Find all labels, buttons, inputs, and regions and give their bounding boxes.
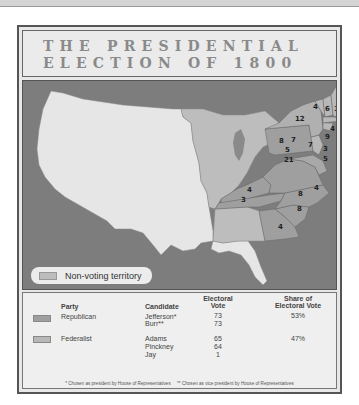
votes-jay: 1 [193,351,243,359]
state-massachusetts [323,117,337,123]
svg-text:4: 4 [330,125,335,133]
map-legend: Non-voting territory [31,267,152,284]
svg-text:8: 8 [279,137,284,145]
header-share-2: Electoral Vote [263,302,333,310]
candidate-pinckney: Pinckney [145,343,173,351]
title-line-2: ELECTION OF 1800 [43,55,297,71]
svg-text:21: 21 [284,156,294,164]
share-republican: 53% [263,312,333,320]
header-candidate: Candidate [145,303,179,311]
non-voting-swatch [39,272,57,280]
share-federalist: 47% [263,335,333,343]
votes-jefferson: 73 [193,312,243,320]
legend-label: Non-voting territory [65,271,142,281]
florida-territory [211,241,267,285]
map-svg: 4 6 16 12 4 9 8 7 7 3 5 5 21 4 3 8 4 8 4 [23,81,337,289]
footnotes: * Chosen as president by House of Repres… [23,381,336,386]
header-electoral-2: Vote [193,302,243,310]
federalist-swatch [33,336,51,343]
republican-swatch [33,315,51,322]
svg-text:5: 5 [285,146,290,154]
svg-text:8: 8 [298,190,303,198]
svg-text:4: 4 [278,223,283,231]
svg-text:9: 9 [325,133,330,141]
svg-text:8: 8 [297,205,302,213]
top-border [0,0,359,7]
candidate-jay: Jay [145,351,156,359]
svg-text:12: 12 [295,115,305,123]
candidate-adams: Adams [145,335,167,343]
svg-text:7: 7 [291,136,296,144]
candidate-burr: Burr** [145,320,164,328]
us-map: 4 6 16 12 4 9 8 7 7 3 5 5 21 4 3 8 4 8 4… [22,80,337,290]
svg-text:16: 16 [334,105,337,113]
header-party: Party [61,303,79,311]
svg-text:4: 4 [313,103,318,111]
votes-adams: 65 [193,335,243,343]
svg-text:6: 6 [325,105,330,113]
footnote-president: * Chosen as president by House of Repres… [65,381,170,386]
svg-text:4: 4 [247,186,252,194]
party-republican: Republican [61,313,96,321]
svg-text:3: 3 [323,145,328,153]
svg-text:4: 4 [314,184,319,192]
title-box: THE PRESIDENTIAL ELECTION OF 1800 [22,30,337,77]
svg-text:7: 7 [308,141,313,149]
svg-text:3: 3 [241,196,246,204]
results-table: Party Candidate Electoral Vote Share of … [22,292,337,389]
footnote-vice-president: ** Chosen as vice president by House of … [177,381,294,386]
votes-burr: 73 [193,320,243,328]
title-line-1: THE PRESIDENTIAL [43,38,304,54]
map-frame: THE PRESIDENTIAL ELECTION OF 1800 [17,25,342,394]
party-federalist: Federalist [61,335,92,343]
votes-pinckney: 64 [193,343,243,351]
mississippi-territory [213,207,265,243]
svg-text:5: 5 [323,155,328,163]
